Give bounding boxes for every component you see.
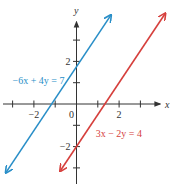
axes: xy−2022−2 — [3, 5, 170, 184]
y-axis-label: y — [73, 5, 79, 16]
x-tick-label: 0 — [69, 109, 74, 120]
equation-label-1: −6x + 4y = 7 — [13, 75, 65, 86]
series-line-1 — [6, 16, 110, 173]
x-tick-label: 2 — [117, 109, 122, 120]
equation-labels: −6x + 4y = 73x − 2y = 4 — [13, 75, 142, 139]
x-axis-label: x — [164, 99, 170, 110]
y-tick-label: 2 — [66, 56, 71, 67]
series-lines — [6, 14, 165, 172]
x-tick-label: −2 — [29, 109, 40, 120]
equation-label-2: 3x − 2y = 4 — [96, 128, 142, 139]
y-tick-label: −2 — [60, 141, 71, 152]
coordinate-plane: xy−2022−2 −6x + 4y = 73x − 2y = 4 — [0, 0, 170, 188]
